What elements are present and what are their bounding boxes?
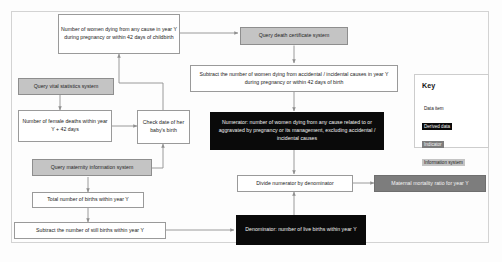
node-label: Maternal mortality ratio for year Y (377, 180, 483, 188)
node-subtract-accidental[interactable]: Subtract the number of women dying from … (190, 65, 398, 92)
key-legend: Key Data item Derived data Indicator Inf… (414, 74, 489, 148)
node-numerator[interactable]: Numerator: number of women dying from an… (210, 112, 384, 150)
node-label: Query vital statistics system (21, 83, 111, 91)
node-query-vital-statistics[interactable]: Query vital statistics system (18, 78, 114, 95)
node-label: Denominator: number of live births withi… (239, 226, 363, 234)
node-label: Numerator: number of women dying from an… (213, 119, 381, 142)
node-label: Number of women dying from any cause in … (61, 26, 177, 42)
node-query-death-certificate[interactable]: Query death certificate system (240, 27, 348, 45)
node-label: Total number of births within year Y (35, 196, 141, 204)
node-label: Divide numerator by denominator (240, 180, 350, 188)
node-label: Number of female deaths within year Y + … (21, 118, 109, 134)
node-label: Subtract the number of still births with… (17, 227, 163, 235)
key-item-indicator: Indicator (422, 141, 444, 149)
key-item-data-item: Data item (422, 105, 446, 113)
node-check-baby-birth-date[interactable]: Check date of her baby's birth (137, 110, 190, 144)
node-female-deaths[interactable]: Number of female deaths within year Y + … (18, 110, 112, 142)
node-label: Query death certificate system (243, 32, 345, 40)
node-label: Query maternity information system (35, 164, 149, 172)
flowchart-canvas: Number of women dying from any cause in … (0, 0, 502, 262)
node-subtract-still-births[interactable]: Subtract the number of still births with… (14, 222, 166, 239)
node-divide[interactable]: Divide numerator by denominator (237, 175, 353, 192)
key-item-information-system: Information system (422, 159, 465, 167)
node-query-maternity-info[interactable]: Query maternity information system (32, 159, 152, 176)
node-label: Subtract the number of women dying from … (193, 71, 395, 87)
node-label: Check date of her baby's birth (140, 119, 187, 135)
node-denominator[interactable]: Denominator: number of live births withi… (236, 215, 366, 245)
key-title: Key (422, 81, 482, 90)
node-women-dying-any-cause[interactable]: Number of women dying from any cause in … (58, 14, 180, 54)
node-maternal-mortality-ratio[interactable]: Maternal mortality ratio for year Y (374, 175, 486, 192)
key-item-derived-data: Derived data (422, 123, 452, 131)
node-total-births[interactable]: Total number of births within year Y (32, 192, 144, 208)
